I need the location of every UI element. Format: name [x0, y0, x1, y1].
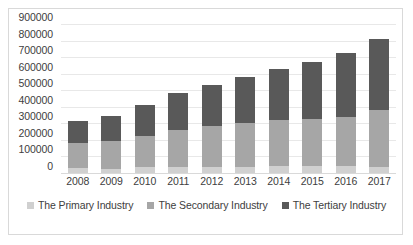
y-axis-tick-label: 800000 [19, 28, 53, 40]
bar-segment-secondary[interactable] [235, 123, 255, 167]
bar-segment-tertiary[interactable] [168, 93, 188, 130]
legend-swatch-icon [147, 202, 154, 209]
x-axis-tick-label: 2008 [62, 175, 93, 187]
bar-segment-secondary[interactable] [369, 110, 389, 167]
x-axis-tick-label: 2009 [96, 175, 127, 187]
bar-segment-tertiary[interactable] [269, 69, 289, 121]
stacked-bar[interactable] [302, 62, 322, 173]
bar-segment-secondary[interactable] [269, 120, 289, 165]
y-axis-tick-label: 0 [47, 160, 53, 172]
bar-segment-secondary[interactable] [168, 130, 188, 167]
x-axis-tick-label: 2014 [263, 175, 294, 187]
legend-item[interactable]: The Primary Industry [27, 199, 133, 211]
bar-column[interactable] [364, 24, 395, 173]
chart-plot-wrapper: 9000008000007000006000005000004000003000… [9, 9, 404, 236]
x-axis-tick-label: 2017 [364, 175, 395, 187]
bar-segment-primary[interactable] [202, 167, 222, 173]
bar-segment-tertiary[interactable] [202, 85, 222, 126]
bar-segment-tertiary[interactable] [135, 105, 155, 135]
y-axis-tick-label: 400000 [19, 94, 53, 106]
x-axis-tick-label: 2011 [163, 175, 194, 187]
x-axis: 2008200920102011201220132014201520162017 [61, 175, 396, 193]
bar-column[interactable] [263, 24, 294, 173]
x-axis-tick-label: 2015 [297, 175, 328, 187]
bar-column[interactable] [163, 24, 194, 173]
bar-column[interactable] [330, 24, 361, 173]
stacked-bar[interactable] [235, 77, 255, 173]
x-axis-tick-label: 2010 [129, 175, 160, 187]
bar-series-group [61, 24, 396, 173]
legend-label: The Primary Industry [38, 199, 133, 211]
bar-segment-tertiary[interactable] [336, 53, 356, 117]
bar-segment-secondary[interactable] [336, 117, 356, 167]
bar-segment-secondary[interactable] [101, 141, 121, 169]
stacked-bar[interactable] [68, 121, 88, 173]
axis-baseline [61, 173, 396, 174]
x-axis-tick-label: 2012 [196, 175, 227, 187]
stacked-bar[interactable] [369, 39, 389, 173]
bar-column[interactable] [62, 24, 93, 173]
y-axis-tick-label: 300000 [19, 110, 53, 122]
bar-segment-primary[interactable] [369, 167, 389, 173]
bar-segment-primary[interactable] [168, 167, 188, 173]
y-axis-tick-label: 200000 [19, 127, 53, 139]
y-axis-tick-label: 900000 [19, 11, 53, 23]
y-axis-tick-label: 500000 [19, 77, 53, 89]
x-axis-tick-label: 2013 [230, 175, 261, 187]
bar-segment-secondary[interactable] [202, 126, 222, 167]
y-axis: 9000008000007000006000005000004000003000… [9, 17, 57, 169]
y-axis-tick-label: 600000 [19, 61, 53, 73]
bar-segment-secondary[interactable] [135, 136, 155, 167]
stacked-bar[interactable] [336, 53, 356, 173]
stacked-bar[interactable] [202, 85, 222, 173]
bar-segment-primary[interactable] [135, 167, 155, 173]
legend-item[interactable]: The Secondary Industry [147, 199, 267, 211]
bar-segment-tertiary[interactable] [101, 116, 121, 141]
bar-segment-secondary[interactable] [302, 119, 322, 166]
chart-container: 9000008000007000006000005000004000003000… [8, 8, 403, 235]
bar-segment-primary[interactable] [101, 169, 121, 173]
legend-label: The Secondary Industry [158, 199, 267, 211]
legend-swatch-icon [27, 202, 34, 209]
y-axis-tick-label: 700000 [19, 44, 53, 56]
bar-segment-tertiary[interactable] [302, 62, 322, 120]
bar-segment-primary[interactable] [68, 168, 88, 173]
bar-segment-tertiary[interactable] [235, 77, 255, 123]
bar-segment-primary[interactable] [269, 166, 289, 173]
chart-legend: The Primary IndustryThe Secondary Indust… [9, 199, 404, 211]
legend-swatch-icon [282, 202, 289, 209]
bar-segment-primary[interactable] [235, 167, 255, 173]
bar-column[interactable] [129, 24, 160, 173]
stacked-bar[interactable] [269, 69, 289, 173]
bar-segment-tertiary[interactable] [68, 121, 88, 143]
bar-column[interactable] [297, 24, 328, 173]
bar-column[interactable] [96, 24, 127, 173]
legend-label: The Tertiary Industry [293, 199, 386, 211]
plot-area [61, 24, 396, 173]
legend-item[interactable]: The Tertiary Industry [282, 199, 386, 211]
stacked-bar[interactable] [135, 105, 155, 173]
bar-column[interactable] [230, 24, 261, 173]
stacked-bar[interactable] [168, 93, 188, 173]
bar-column[interactable] [196, 24, 227, 173]
x-axis-tick-label: 2016 [330, 175, 361, 187]
bar-segment-secondary[interactable] [68, 143, 88, 167]
y-axis-tick-label: 100000 [19, 143, 53, 155]
stacked-bar[interactable] [101, 116, 121, 173]
bar-segment-primary[interactable] [302, 166, 322, 173]
bar-segment-primary[interactable] [336, 166, 356, 173]
bar-segment-tertiary[interactable] [369, 39, 389, 110]
